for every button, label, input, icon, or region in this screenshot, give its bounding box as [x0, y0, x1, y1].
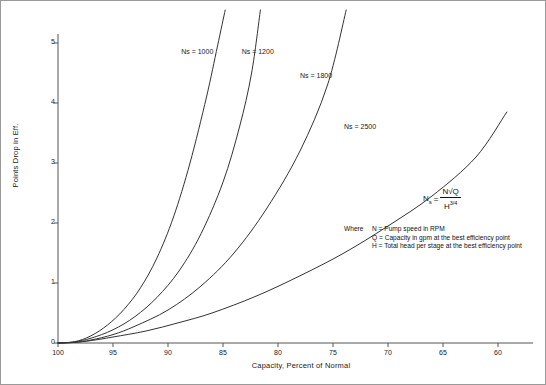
curve-label: Ns = 1200: [242, 48, 274, 55]
y-tick-label: 0: [45, 338, 55, 345]
curve-3: [58, 10, 346, 343]
x-tick-label: 90: [156, 349, 180, 356]
curve-label: Ns = 2500: [344, 123, 376, 130]
y-tick-label: 3: [45, 158, 55, 165]
curve-2: [58, 10, 260, 343]
where-lead: Where: [344, 225, 363, 234]
chart-plot-svg: [1, 1, 546, 385]
x-tick-label: 95: [101, 349, 125, 356]
x-axis-title: Capacity, Percent of Normal: [201, 361, 401, 370]
y-tick-label: 4: [45, 98, 55, 105]
chart-frame: Points Drop in Eff. Capacity, Percent of…: [0, 0, 546, 385]
definitions-block: Where N = Pump speed in RPM Q = Capacity…: [372, 225, 522, 251]
formula-lhs: Ns: [422, 187, 433, 212]
x-tick-label: 75: [321, 349, 345, 356]
curve-1: [58, 10, 225, 343]
y-tick-label: 2: [45, 218, 55, 225]
x-tick-label: 80: [266, 349, 290, 356]
y-axis-title: Points Drop in Eff.: [11, 116, 20, 196]
definition-line: Q = Capacity in gpm at the best efficien…: [372, 234, 522, 243]
curves-group: [58, 10, 507, 343]
x-tick-label: 100: [46, 349, 70, 356]
curve-label: Ns = 1000: [181, 48, 213, 55]
x-tick-label: 60: [486, 349, 510, 356]
formula-numerator: N√Q: [440, 187, 460, 198]
x-tick-label: 85: [211, 349, 235, 356]
formula-equals: =: [433, 187, 440, 212]
y-tick-label: 5: [45, 38, 55, 45]
x-tick-label: 70: [376, 349, 400, 356]
curve-label: Ns = 1800: [300, 72, 332, 79]
definition-line: H = Total head per stage at the best eff…: [372, 242, 522, 251]
formula-denominator: H3/4: [440, 198, 460, 212]
x-tick-label: 65: [431, 349, 455, 356]
y-tick-label: 1: [45, 278, 55, 285]
definition-line: N = Pump speed in RPM: [372, 225, 522, 234]
specific-speed-formula: Ns = N√Q H3/4: [422, 187, 462, 212]
formula-fraction: N√Q H3/4: [439, 187, 461, 212]
